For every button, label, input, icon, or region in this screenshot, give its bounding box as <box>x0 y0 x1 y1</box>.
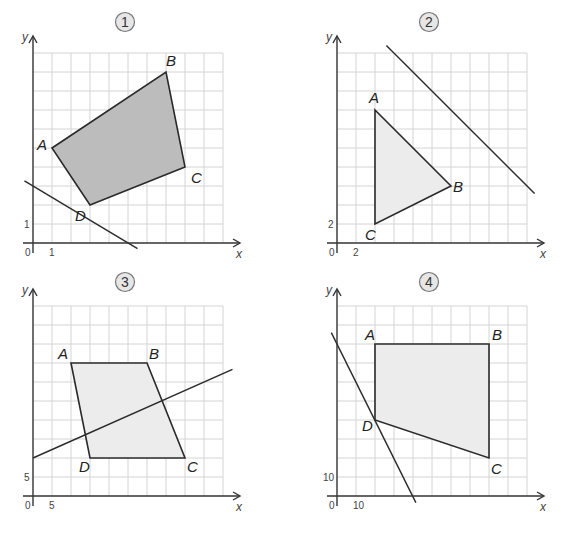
x-axis-label: x <box>235 247 243 261</box>
panel-number-badge: 4 <box>420 273 439 292</box>
vertex-label-d: D <box>362 417 373 434</box>
svg-text:4: 4 <box>425 274 433 290</box>
diagram-panel-2: xy022ABC2 <box>325 13 547 262</box>
vertex-label-c: C <box>365 226 376 243</box>
x-tick-label: 5 <box>49 500 55 511</box>
vertex-label-d: D <box>75 207 86 224</box>
x-tick-label: 1 <box>49 247 55 258</box>
vertex-label-a: A <box>36 136 47 153</box>
origin-label: 0 <box>329 247 335 258</box>
svg-text:2: 2 <box>425 14 433 30</box>
svg-text:1: 1 <box>121 14 129 30</box>
diagram-panel-3: xy055ABCD3 <box>21 273 243 515</box>
vertex-label-b: B <box>453 178 463 195</box>
x-axis-label: x <box>539 500 547 514</box>
y-tick-label: 5 <box>24 472 30 483</box>
vertex-label-c: C <box>187 458 198 475</box>
vertex-label-b: B <box>166 52 176 69</box>
y-axis-label: y <box>21 283 29 297</box>
y-tick-label: 2 <box>328 219 334 230</box>
origin-label: 0 <box>25 247 31 258</box>
vertex-label-a: A <box>364 326 375 343</box>
x-axis-label: x <box>235 500 243 514</box>
svg-text:3: 3 <box>121 274 129 290</box>
vertex-label-a: A <box>57 345 68 362</box>
y-axis-label: y <box>21 30 29 44</box>
diagram-canvas: xy011ABCD1xy022ABC2xy055ABCD3xy01010ABCD… <box>0 0 563 533</box>
diagram-panel-4: xy01010ABCD4 <box>323 273 547 515</box>
vertex-label-a: A <box>368 89 379 106</box>
polygon-shape <box>71 363 185 458</box>
diagram-panel-1: xy011ABCD1 <box>21 13 243 262</box>
vertex-label-c: C <box>191 169 202 186</box>
y-tick-label: 1 <box>24 219 30 230</box>
x-tick-label: 10 <box>353 500 365 511</box>
vertex-label-d: D <box>79 458 90 475</box>
grid <box>337 53 527 243</box>
x-axis-label: x <box>539 247 547 261</box>
vertex-label-b: B <box>149 345 159 362</box>
y-axis-label: y <box>325 283 333 297</box>
x-tick-label: 2 <box>353 247 359 258</box>
origin-label: 0 <box>25 500 31 511</box>
y-axis-label: y <box>325 30 333 44</box>
y-tick-label: 10 <box>323 472 335 483</box>
origin-label: 0 <box>329 500 335 511</box>
polygon-shape <box>52 72 185 205</box>
panel-number-badge: 3 <box>116 273 135 292</box>
panel-number-badge: 2 <box>420 13 439 32</box>
vertex-label-c: C <box>491 460 502 477</box>
vertex-label-b: B <box>492 326 502 343</box>
panel-number-badge: 1 <box>116 13 135 32</box>
